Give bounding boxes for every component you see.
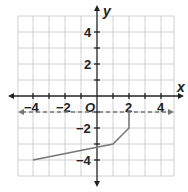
- x-tick-label: 4: [157, 100, 165, 115]
- coordinate-plane: y x −4 −2 O 2 4 4 2 −2 −4: [0, 0, 188, 192]
- x-tick-label: −2: [56, 100, 71, 115]
- y-tick-label: 4: [84, 25, 92, 40]
- y-tick-label: −2: [76, 121, 91, 136]
- x-tick-label: −4: [24, 100, 40, 115]
- x-axis-label: x: [176, 79, 186, 95]
- y-tick-label: −4: [76, 153, 92, 168]
- y-axis-label: y: [102, 3, 112, 19]
- x-axis: [8, 93, 184, 99]
- origin-label: O: [85, 100, 95, 115]
- y-tick-label: 2: [84, 57, 91, 72]
